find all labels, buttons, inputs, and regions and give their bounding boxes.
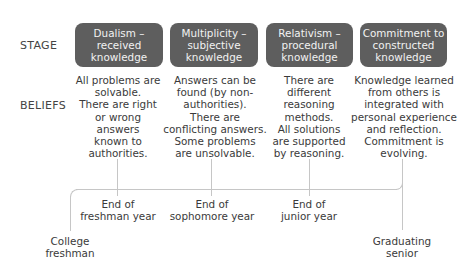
stage-box-dualism: Dualism – received knowledge [75,23,163,67]
milestone-tick-freshman [117,159,118,196]
timeline-start-line [70,196,71,231]
beliefs-row-label: BELIEFS [20,99,66,112]
milestone-tick-sophomore [211,159,212,196]
milestone-label-junior: End of junior year [268,198,350,222]
timeline-end-label: Graduating senior [368,235,436,259]
beliefs-commitment: Knowledge learned from others is integra… [348,74,460,159]
stage-title: Dualism – received knowledge [91,27,147,64]
timeline-start-label: College freshman [40,235,100,259]
beliefs-dualism: All problems are solvable. There are rig… [67,74,169,159]
timeline-end-line [402,159,403,230]
beliefs-multiplicity: Answers can be found (by non- authoritie… [160,74,270,159]
stage-title: Commitment to constructed knowledge [363,27,445,64]
beliefs-relativism: There are different reasoning methods. A… [259,74,359,159]
stage-title: Multiplicity – subjective knowledge [181,27,246,64]
stage-box-commitment: Commitment to constructed knowledge [360,23,447,67]
milestone-label-sophomore: End of sophomore year [164,198,260,222]
milestone-label-freshman: End of freshman year [72,198,164,222]
stage-box-relativism: Relativism – procedural knowledge [266,23,353,67]
stage-title: Relativism – procedural knowledge [278,27,340,64]
milestone-tick-junior [309,159,310,196]
stage-row-label: STAGE [20,39,57,52]
timeline-horizontal-line [76,189,397,190]
stage-box-multiplicity: Multiplicity – subjective knowledge [170,23,258,67]
timeline-corner-left [70,189,78,197]
